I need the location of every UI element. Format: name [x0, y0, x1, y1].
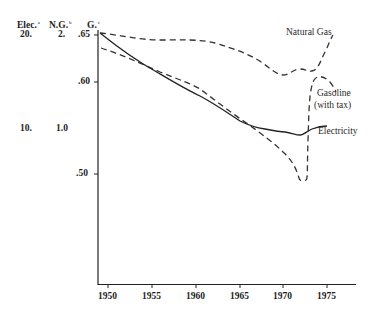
label-electricity: Electricity: [318, 127, 358, 137]
label-natural-gas: Natural Gas: [286, 28, 332, 38]
g-tick-50: .50: [76, 169, 88, 179]
ng-tick-1: 1.0: [56, 124, 68, 134]
g-tick-60: .60: [78, 77, 90, 87]
x-tick-1950: 1950: [98, 292, 117, 302]
series-electricity: [100, 33, 327, 135]
x-tick-1960: 1960: [186, 292, 205, 302]
elec-tick-10: 10.: [20, 124, 32, 134]
series-gasoline: [101, 48, 336, 181]
label-gasoline-tax: (with tax): [314, 101, 351, 111]
elec-tick-20: 20.: [20, 30, 32, 40]
g-tick-65: .65: [78, 30, 90, 40]
label-gasoline: Gasoline: [317, 89, 351, 99]
x-tick-1975: 1975: [317, 292, 336, 302]
series-natural-gas: [100, 33, 333, 75]
chart-plot: [0, 0, 371, 319]
x-tick-1965: 1965: [230, 292, 249, 302]
ng-tick-2: 2.: [58, 30, 65, 40]
x-tick-1970: 1970: [273, 292, 292, 302]
x-tick-1955: 1955: [142, 292, 161, 302]
